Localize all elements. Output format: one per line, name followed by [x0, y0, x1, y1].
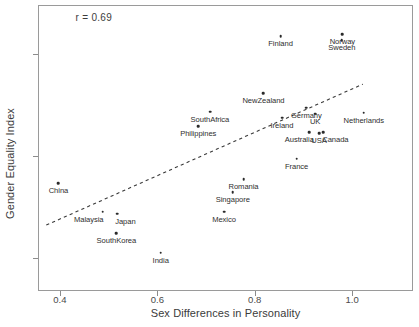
trend-line [0, 0, 419, 327]
scatter-plot-figure: Gender Equality Index Sex Differences in… [0, 0, 419, 327]
